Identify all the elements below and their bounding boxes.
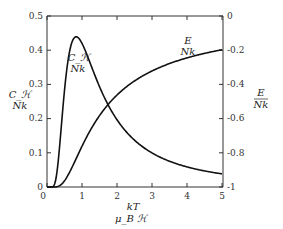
y-right-tick-3: -0.6 bbox=[227, 113, 245, 123]
plot-frame bbox=[47, 16, 223, 187]
x-tick-1: 1 bbox=[79, 191, 85, 201]
curve-label-e-num: E bbox=[183, 35, 192, 46]
ticks bbox=[47, 16, 223, 187]
y-left-label: C_ℋ Nk bbox=[9, 89, 34, 111]
x-tick-5: 5 bbox=[219, 191, 225, 201]
x-label-num: kT bbox=[127, 201, 141, 212]
curve-label-c-den: Nk bbox=[70, 63, 86, 74]
curve-label-e-den: Nk bbox=[180, 46, 196, 57]
y-right-label-den: Nk bbox=[253, 99, 269, 110]
curve-label-e: E Nk bbox=[180, 35, 196, 57]
right-tick-labels: 0 -0.2 -0.4 -0.6 -0.8 -1 bbox=[227, 11, 245, 192]
y-left-tick-5: 0.5 bbox=[29, 11, 44, 21]
y-left-label-den: Nk bbox=[12, 100, 28, 111]
x-tick-0: 0 bbox=[40, 191, 46, 201]
y-right-tick-2: -0.4 bbox=[227, 79, 245, 89]
x-tick-4: 4 bbox=[184, 191, 190, 201]
y-left-tick-4: 0.4 bbox=[29, 45, 44, 55]
left-tick-labels: 0 0.1 0.2 0.3 0.4 0.5 bbox=[29, 11, 44, 192]
y-right-label-num: E bbox=[256, 87, 265, 98]
curve-label-c: C_ℋ Nk bbox=[68, 52, 93, 74]
x-tick-3: 3 bbox=[149, 191, 155, 201]
y-right-tick-1: -0.2 bbox=[227, 45, 244, 55]
y-left-tick-1: 0.1 bbox=[29, 148, 43, 158]
y-right-tick-4: -0.8 bbox=[227, 148, 245, 158]
y-right-tick-0: 0 bbox=[227, 11, 233, 21]
x-label-den: μ_B ℋ bbox=[115, 213, 149, 225]
y-left-tick-3: 0.3 bbox=[29, 79, 44, 89]
x-tick-2: 2 bbox=[114, 191, 120, 201]
y-right-label: E Nk bbox=[253, 87, 269, 110]
y-right-tick-5: -1 bbox=[227, 182, 236, 192]
y-left-tick-2: 0.2 bbox=[29, 113, 43, 123]
x-axis-label: kT μ_B ℋ bbox=[115, 201, 149, 225]
x-tick-labels: 0 1 2 3 4 5 bbox=[40, 191, 225, 201]
schottky-chart: 0 0.1 0.2 0.3 0.4 0.5 0 -0.2 -0.4 -0.6 -… bbox=[0, 0, 283, 229]
